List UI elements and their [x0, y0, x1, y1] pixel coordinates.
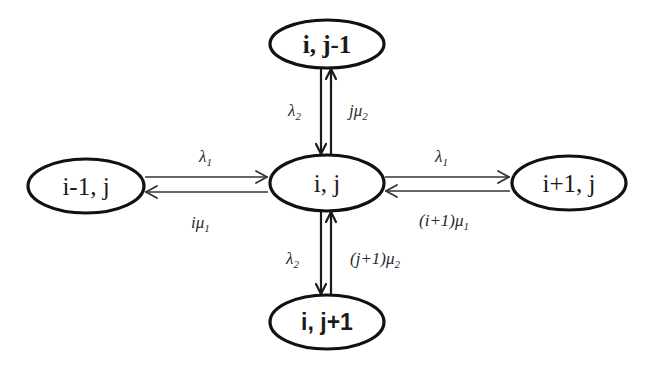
node-right: i+1, j [512, 156, 626, 210]
edge-top-to-center [316, 69, 326, 154]
edge-center-to-left [145, 186, 268, 198]
node-left: i-1, j [28, 159, 144, 213]
node-bottom-label: i, j+1 [301, 309, 353, 335]
rate-label-i-plus-1-mu1: (i+1)μ1 [419, 211, 469, 232]
rate-label-lambda2-top: λ2 [287, 101, 301, 122]
node-top-label: i, j-1 [303, 31, 352, 58]
rate-label-lambda2-bottom: λ2 [285, 249, 299, 270]
rate-label-imu1: iμ1 [191, 213, 210, 234]
node-bottom: i, j+1 [270, 295, 384, 349]
node-right-label: i+1, j [543, 170, 596, 197]
rate-label-jmu2: jμ2 [347, 101, 368, 122]
edge-left-to-center [145, 171, 268, 183]
edge-center-to-top [326, 69, 336, 154]
node-center: i, j [270, 155, 384, 211]
edge-bottom-to-center [326, 212, 336, 294]
edge-right-to-center [385, 185, 510, 197]
state-transition-diagram: i, j-1 i, j i-1, j i+1, j i, j+1 λ2 jμ2 … [0, 0, 656, 372]
node-left-label: i-1, j [62, 173, 109, 200]
rate-label-lambda1-right: λ1 [434, 147, 448, 168]
rate-label-lambda1-left: λ1 [198, 147, 212, 168]
edge-center-to-right [385, 171, 510, 183]
node-center-label: i, j [314, 170, 340, 197]
edge-center-to-bottom [316, 212, 326, 294]
node-top: i, j-1 [270, 20, 384, 68]
rate-label-j-plus-1-mu2: (j+1)μ2 [350, 249, 401, 270]
